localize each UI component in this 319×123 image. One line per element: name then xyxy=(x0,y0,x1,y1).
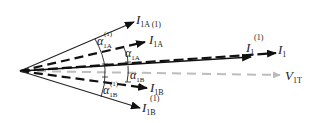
vector-i1b-1 xyxy=(20,71,140,108)
label-a1b-1-sup: (1) xyxy=(110,80,119,88)
phasor-diagram: I1A (1) I1A I1 (1) I1 V1T I1B I1B (1) α1… xyxy=(0,0,319,123)
label-i1: I1 xyxy=(277,42,286,59)
label-a1a-1-sup: (1) xyxy=(104,30,113,38)
label-i1a: I1A xyxy=(148,32,163,49)
label-i1-1-sup: (1) xyxy=(254,33,264,42)
label-a1a: α1A xyxy=(125,46,140,62)
label-a1b: α1B xyxy=(130,68,145,84)
label-i1b-1-sup: (1) xyxy=(150,94,160,103)
vector-i1a-1 xyxy=(20,22,134,71)
vector-v1t xyxy=(22,71,280,75)
label-i1a-1: I1A (1) xyxy=(135,12,161,29)
label-v1t: V1T xyxy=(285,68,302,85)
angle-arc-a1b xyxy=(127,66,128,82)
label-i1-1: I1 xyxy=(245,40,254,57)
